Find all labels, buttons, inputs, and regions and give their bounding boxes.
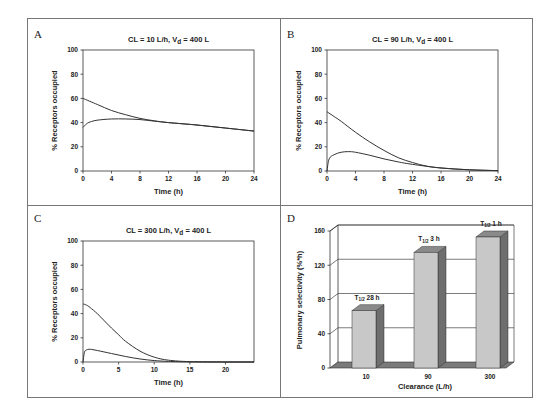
panel-d-bar-chart: 0408012016010T1/2 28 h90T1/2 3 h300T1/2 …	[295, 220, 514, 391]
curve-lower	[327, 152, 498, 171]
half-life-annotation: T1/2 3 h	[418, 235, 439, 244]
x-tick-label: 16	[193, 175, 201, 182]
side-gridline	[330, 294, 338, 300]
panel-b-line-chart: CL = 90 L/h, Vd = 400 L02040608010004812…	[294, 35, 502, 196]
panel-letter-b: B	[287, 28, 294, 40]
bar-300	[476, 237, 500, 368]
panel-letter-d: D	[287, 212, 295, 224]
curve-upper	[83, 98, 254, 131]
x-tick-label: 8	[382, 175, 386, 182]
x-tick-label: 12	[409, 175, 417, 182]
x-tick-label: 8	[138, 175, 142, 182]
y-tick-label: 80	[71, 71, 79, 78]
x-tick-label: 15	[186, 366, 194, 373]
chart-title: CL = 300 L/h, Vd = 400 L	[126, 226, 212, 236]
y-tick-label: 100	[67, 237, 78, 244]
y-tick-label: 120	[314, 262, 325, 269]
y-tick-label: 80	[71, 262, 79, 269]
curve-upper	[327, 112, 498, 171]
half-life-annotation: T1/2 28 h	[354, 294, 379, 303]
plot-area	[83, 241, 254, 362]
y-axis-label: % Receptors occupied	[50, 261, 59, 342]
side-gridline	[330, 328, 338, 334]
y-axis-label: % Receptors occupied	[294, 70, 303, 151]
x-tick-label: 10	[151, 366, 159, 373]
y-tick-label: 20	[71, 334, 79, 341]
y-axis-label: % Receptors occupied	[50, 70, 59, 151]
x-tick-label: 20	[222, 366, 230, 373]
x-tick-label: 0	[81, 366, 85, 373]
x-tick-label: 5	[117, 366, 121, 373]
y-tick-label: 60	[71, 95, 79, 102]
x-tick-label: 300	[485, 373, 496, 380]
y-tick-label: 0	[74, 358, 78, 365]
side-gridline	[330, 259, 338, 265]
bar-10	[352, 311, 376, 368]
x-tick-label: 4	[110, 175, 114, 182]
y-axis-label: Pulmonary selectivity (%*h)	[295, 250, 304, 349]
bar-90	[414, 252, 438, 368]
x-tick-label: 0	[325, 175, 329, 182]
y-tick-label: 100	[311, 46, 322, 53]
x-tick-label: 24	[494, 175, 502, 182]
figure-canvas: A B C D CL = 10 L/h, Vd = 400 L020406080…	[0, 0, 555, 412]
x-tick-label: 16	[437, 175, 445, 182]
y-tick-label: 0	[74, 167, 78, 174]
y-tick-label: 100	[67, 46, 78, 53]
curve-lower	[83, 119, 254, 131]
plot-area	[327, 50, 498, 171]
y-tick-label: 0	[321, 364, 325, 371]
panel-letter-a: A	[34, 28, 42, 40]
y-tick-label: 60	[71, 286, 79, 293]
x-axis-label: Time (h)	[154, 187, 184, 196]
half-life-annotation: T1/2 1 h	[480, 220, 501, 229]
y-tick-label: 60	[315, 95, 323, 102]
x-tick-label: 12	[165, 175, 173, 182]
y-tick-label: 40	[71, 119, 79, 126]
bar-side	[438, 246, 446, 368]
x-tick-label: 0	[81, 175, 85, 182]
y-tick-label: 80	[318, 296, 326, 303]
plot-area	[83, 50, 254, 171]
y-tick-label: 40	[318, 330, 326, 337]
x-axis-label: Time (h)	[154, 378, 184, 387]
chart-title: CL = 10 L/h, Vd = 400 L	[128, 35, 209, 45]
y-tick-label: 40	[315, 119, 323, 126]
x-tick-label: 24	[250, 175, 258, 182]
x-tick-label: 20	[222, 175, 230, 182]
bar-side	[376, 305, 384, 368]
y-tick-label: 160	[314, 227, 325, 234]
bar-side	[500, 231, 508, 368]
x-tick-label: 4	[354, 175, 358, 182]
panel-a-line-chart: CL = 10 L/h, Vd = 400 L02040608010004812…	[50, 35, 258, 196]
y-tick-label: 20	[71, 143, 79, 150]
chart-title: CL = 90 L/h, Vd = 400 L	[372, 35, 453, 45]
x-tick-label: 90	[424, 373, 432, 380]
y-tick-label: 40	[71, 310, 79, 317]
y-tick-label: 80	[315, 71, 323, 78]
panel-letter-c: C	[34, 212, 41, 224]
x-axis-label: Time (h)	[398, 187, 428, 196]
y-tick-label: 20	[315, 143, 323, 150]
y-tick-label: 0	[318, 167, 322, 174]
x-tick-label: 10	[362, 373, 370, 380]
panel-c-line-chart: CL = 300 L/h, Vd = 400 L0204060801000510…	[50, 226, 254, 387]
x-axis-label: Clearance (L/h)	[398, 382, 453, 391]
x-tick-label: 20	[466, 175, 474, 182]
